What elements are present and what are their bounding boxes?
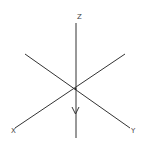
- y-axis-line: [25, 54, 130, 128]
- axes-diagram: [0, 0, 153, 146]
- z-axis-label: Z: [77, 14, 82, 21]
- x-axis-label: X: [11, 128, 16, 135]
- origin-point: [75, 88, 77, 90]
- y-axis-label: Y: [131, 128, 135, 135]
- x-axis-line: [15, 54, 125, 128]
